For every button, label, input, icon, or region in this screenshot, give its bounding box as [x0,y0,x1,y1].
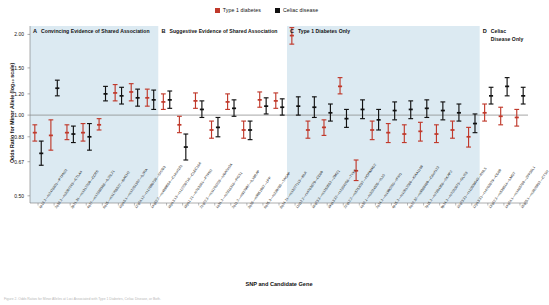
panel-title-c: Type 1 Diabetes Only [298,28,477,36]
figure-caption: Figure 2. Odds Ratios for Minor Alleles … [4,297,161,301]
panel-letter-c: C [290,28,294,34]
panel-letter-b: B [162,28,166,34]
x-axis-title: SNP and Candidate Gene [169,281,389,287]
panel-background-d [480,26,528,203]
panel-title-b: Suggestive Evidence of Shared Associatio… [170,28,285,36]
legend-item-celiac-disease: Celiac disease [275,7,318,13]
y-axis-title: Odds Ratio for Minor Allele (log₁₀ scale… [9,62,15,162]
legend-swatch-icon [215,8,220,13]
legend-label: Celiac disease [283,7,318,13]
panel-letter-a: A [33,28,37,34]
chart-legend: Type 1 diabetes Celiac disease [0,4,533,16]
panel-title-d: Celiac Disease Only [491,28,525,43]
y-tick-label: 0.50 [2,193,24,199]
panel-title-a: Convincing Evidence of Shared Associatio… [41,28,156,36]
y-tick-label: 2.00 [2,31,24,37]
legend-label: Type 1 diabetes [223,7,261,13]
legend-item-type-1-diabetes: Type 1 diabetes [215,7,261,13]
panel-letter-d: D [483,28,487,34]
legend-swatch-icon [275,8,280,13]
